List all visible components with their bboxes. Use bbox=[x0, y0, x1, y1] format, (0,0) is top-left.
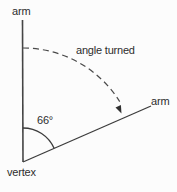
vertical-arm-line bbox=[23, 20, 24, 162]
angle-value-label: 66° bbox=[37, 114, 53, 126]
vertex-label: vertex bbox=[7, 166, 36, 178]
arm-top-label: arm bbox=[12, 5, 30, 17]
rotation-dashed-arc bbox=[23, 48, 120, 102]
arrowhead-icon bbox=[116, 105, 122, 114]
arm-right-label: arm bbox=[151, 95, 169, 107]
angle-arc bbox=[23, 128, 54, 148]
angle-diagram: arm angle turned arm 66° vertex bbox=[0, 0, 177, 192]
angle-turned-label: angle turned bbox=[76, 44, 135, 56]
